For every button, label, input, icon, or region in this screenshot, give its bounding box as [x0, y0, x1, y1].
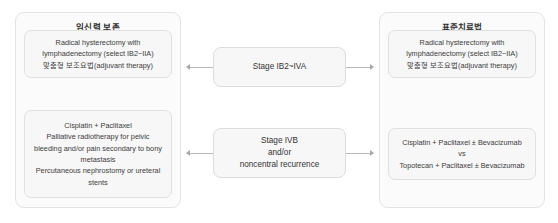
- box-text-line: Radical hysterectomy with: [56, 37, 141, 48]
- box-text-line: stents: [88, 177, 107, 188]
- stage-text-line: Stage IB2~IVA: [253, 61, 306, 73]
- fertility-preservation-surgery-box: Radical hysterectomy with lymphadenectom…: [24, 30, 172, 78]
- box-text-line: vs: [458, 148, 465, 159]
- box-text-line: Percutaneous nephrostomy or ureteral: [36, 165, 161, 176]
- box-text-line: metastasis: [81, 154, 116, 165]
- arrowhead-right-icon: [370, 150, 374, 156]
- box-text-line: lymphadenectomy (select IB2~IIA): [42, 48, 153, 59]
- fertility-preservation-palliative-box: Cisplatin + Paclitaxel Palliative radiot…: [24, 110, 172, 198]
- arrowhead-right-icon: [370, 64, 374, 70]
- arrowhead-left-icon: [186, 64, 190, 70]
- box-text-line: lymphadenectomy (select IB2~IIA): [406, 48, 517, 59]
- standard-chemotherapy-box: Cisplatin + Paclitaxel ± Bevacizumab vs …: [388, 128, 536, 180]
- stage-text-line: noncentral recurrence: [240, 159, 320, 171]
- connector-stage1-to-right: [346, 67, 370, 68]
- standard-surgery-box: Radical hysterectomy with lymphadenectom…: [388, 30, 536, 78]
- connector-stage2-to-right: [346, 153, 370, 154]
- box-text-line: bleeding and/or pain secondary to bony: [34, 143, 162, 154]
- box-text-line: Radical hysterectomy with: [420, 37, 505, 48]
- stage-ib2-iva-box: Stage IB2~IVA: [213, 47, 346, 87]
- box-text-line: Cisplatin + Paclitaxel ± Bevacizumab: [402, 137, 521, 148]
- connector-stage2-to-left: [190, 153, 213, 154]
- arrowhead-left-icon: [186, 150, 190, 156]
- treatment-flowchart: 임신력 보존 Radical hysterectomy with lymphad…: [0, 0, 558, 223]
- box-text-line: Cisplatin + Paclitaxel: [64, 120, 132, 131]
- stage-ivb-box: Stage IVB and/or noncentral recurrence: [213, 128, 346, 178]
- box-text-line: 맞춤형 보조요법(adjuvant therapy): [43, 60, 153, 71]
- box-text-line: 맞춤형 보조요법(adjuvant therapy): [407, 60, 517, 71]
- box-text-line: Topotecan + Paclitaxel ± Bevacizumab: [399, 160, 524, 171]
- stage-text-line: and/or: [268, 147, 291, 159]
- box-text-line: Palliative radiotherapy for pelvic: [46, 131, 149, 142]
- connector-stage1-to-left: [190, 67, 213, 68]
- stage-text-line: Stage IVB: [261, 135, 298, 147]
